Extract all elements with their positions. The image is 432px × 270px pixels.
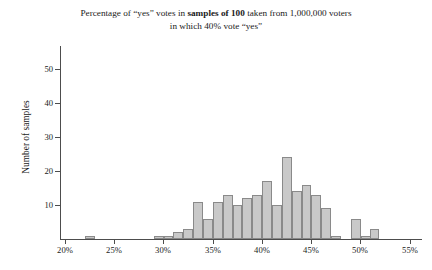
histogram-bar	[252, 195, 262, 239]
histogram-bar	[173, 232, 183, 239]
histogram-bar	[154, 236, 164, 239]
histogram-bar	[331, 236, 341, 239]
plot-area: Number of samples 10 20 30 40 50 20% 25%…	[0, 0, 432, 270]
histogram-bar	[213, 202, 223, 239]
histogram-bars	[0, 0, 432, 270]
histogram-bar	[272, 205, 282, 239]
histogram-bar	[302, 185, 312, 239]
histogram-bar	[164, 236, 174, 239]
histogram-bar	[311, 195, 321, 239]
histogram-bar	[193, 202, 203, 239]
histogram-bar	[242, 198, 252, 239]
histogram-bar	[203, 219, 213, 239]
histogram-bar	[292, 191, 302, 239]
histogram-bar	[351, 219, 361, 239]
histogram-bar	[233, 205, 243, 239]
histogram-figure: Percentage of “yes” votes in samples of …	[0, 0, 432, 270]
histogram-bar	[321, 208, 331, 239]
histogram-bar	[262, 181, 272, 239]
histogram-bar	[85, 236, 95, 239]
histogram-bar	[183, 229, 193, 239]
histogram-bar	[282, 157, 292, 239]
histogram-bar	[223, 195, 233, 239]
histogram-bar	[370, 229, 380, 239]
